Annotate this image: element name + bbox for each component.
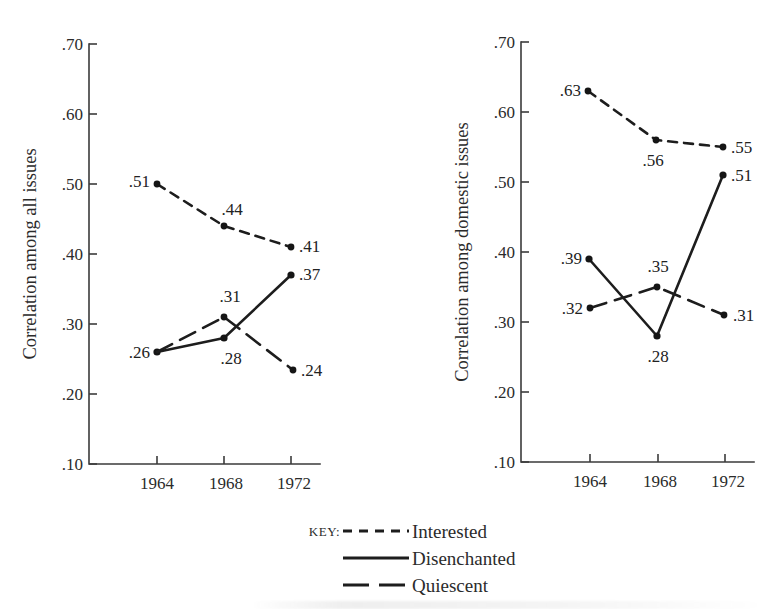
left-series-interested: .51 .44 .41 [129, 172, 321, 256]
left-interested-label-1: .44 [221, 200, 243, 219]
data-point [290, 367, 297, 374]
data-point [220, 334, 227, 341]
panel-domestic-issues: .10 .20 .30 .40 .50 .60 .70 1964 1968 19… [452, 33, 754, 491]
left-interested-label-2: .41 [299, 237, 320, 256]
right-ytick-label-6: .70 [494, 33, 515, 52]
data-point [154, 181, 161, 188]
left-disenchanted-label-0: .26 [129, 343, 150, 362]
right-series-interested: .63 .56 .55 [560, 81, 753, 170]
left-ytick-label-6: .70 [62, 35, 83, 54]
left-axis-lines [89, 44, 320, 464]
left-ytick-label-1: .20 [62, 385, 83, 404]
left-disenchanted-label-2: .37 [299, 265, 321, 284]
page-edge-artifact [250, 601, 770, 609]
right-interested-label-1: .56 [642, 151, 663, 170]
legend-key-text: KEY: [309, 524, 340, 539]
right-x-ticks [590, 454, 725, 462]
right-xtick-label-1964: 1964 [573, 472, 608, 491]
left-xtick-label-1964: 1964 [140, 474, 175, 493]
right-quiescent-label-0: .32 [562, 299, 583, 318]
right-interested-label-2: .55 [731, 138, 752, 157]
right-quiescent-label-2: .31 [733, 306, 754, 325]
right-xtick-label-1972: 1972 [711, 472, 745, 491]
legend-label-quiescent: Quiescent [412, 575, 489, 596]
data-point [654, 284, 661, 291]
data-point [653, 332, 660, 339]
right-interested-label-0: .63 [560, 81, 581, 100]
data-point [720, 144, 727, 151]
left-quiescent-label-1: .31 [219, 287, 240, 306]
right-series-quiescent: .32 .35 .31 [562, 257, 755, 325]
data-point [719, 171, 726, 178]
data-point [721, 312, 728, 319]
left-ytick-label-5: .60 [62, 105, 83, 124]
legend-label-disenchanted: Disenchanted [412, 548, 516, 569]
left-y-ticks [89, 44, 97, 464]
data-point [221, 314, 228, 321]
left-ytick-label-3: .40 [62, 245, 83, 264]
right-y-ticks [521, 42, 529, 462]
data-point [653, 137, 660, 144]
legend: KEY: Interested Disenchanted Quiescent [309, 521, 516, 596]
data-point [587, 305, 594, 312]
right-ytick-label-4: .50 [494, 173, 515, 192]
left-y-axis-title: Correlation among all issues [20, 148, 40, 359]
legend-label-interested: Interested [412, 521, 487, 542]
left-xtick-label-1968: 1968 [209, 474, 243, 493]
left-ytick-label-4: .50 [62, 175, 83, 194]
panel-all-issues: .10 .20 .30 .40 .50 .60 .70 1964 1968 19… [20, 35, 323, 493]
right-axis-lines [521, 42, 754, 462]
right-disenchanted-label-0: .39 [561, 249, 582, 268]
left-ytick-label-2: .30 [62, 315, 83, 334]
left-disenchanted-label-1: .28 [220, 349, 241, 368]
data-point [288, 244, 295, 251]
right-ytick-label-3: .40 [494, 243, 515, 262]
right-ytick-label-1: .20 [494, 383, 515, 402]
data-point [585, 88, 592, 95]
right-ytick-label-0: .10 [494, 453, 515, 472]
right-quiescent-label-1: .35 [647, 257, 668, 276]
data-point [221, 223, 228, 230]
figure-root: .10 .20 .30 .40 .50 .60 .70 1964 1968 19… [0, 0, 783, 609]
right-disenchanted-label-1: .28 [647, 347, 668, 366]
right-ytick-label-5: .60 [494, 103, 515, 122]
data-point [585, 255, 592, 262]
left-interested-label-0: .51 [129, 172, 150, 191]
right-disenchanted-label-2: .51 [731, 166, 752, 185]
left-ytick-label-0: .10 [62, 455, 83, 474]
right-y-axis-title: Correlation among domestic issues [452, 122, 472, 381]
data-point [287, 271, 294, 278]
left-x-ticks [157, 456, 291, 464]
left-quiescent-label-2: .24 [301, 361, 323, 380]
chart-canvas: .10 .20 .30 .40 .50 .60 .70 1964 1968 19… [0, 0, 783, 609]
right-ytick-label-2: .30 [494, 313, 515, 332]
left-xtick-label-1972: 1972 [277, 474, 311, 493]
right-xtick-label-1968: 1968 [643, 472, 677, 491]
